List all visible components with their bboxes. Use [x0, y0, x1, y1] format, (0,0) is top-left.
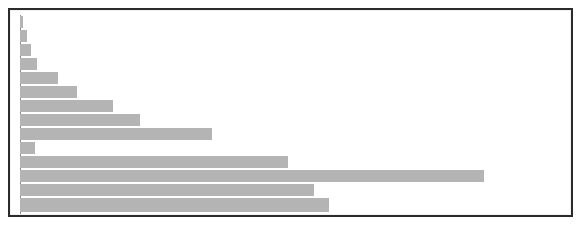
bar-row — [20, 142, 568, 154]
bar-row — [20, 170, 568, 182]
bar-row — [20, 100, 568, 112]
bar — [20, 198, 329, 212]
bar-row — [20, 72, 568, 84]
bar — [20, 142, 35, 154]
bar — [20, 114, 140, 126]
bar — [20, 58, 37, 70]
plot-area — [20, 15, 568, 214]
bar — [20, 100, 113, 112]
bar — [20, 170, 484, 182]
bar-row — [20, 44, 568, 56]
bar — [20, 16, 23, 28]
figure-inner-bevel — [10, 10, 571, 215]
bar-row — [20, 128, 568, 140]
bar-row — [20, 58, 568, 70]
bar — [20, 86, 77, 98]
figure-frame — [8, 8, 573, 217]
bar — [20, 44, 31, 56]
screenshot-root — [0, 0, 581, 225]
bar — [20, 184, 314, 196]
bar-row — [20, 30, 568, 42]
bar — [20, 128, 212, 140]
bar — [20, 30, 27, 42]
bar-row — [20, 184, 568, 196]
bar-row — [20, 156, 568, 168]
bar-row — [20, 114, 568, 126]
bar — [20, 72, 58, 84]
bar-row — [20, 86, 568, 98]
bar-row — [20, 16, 568, 28]
bar — [20, 156, 288, 168]
bar-row — [20, 198, 568, 212]
